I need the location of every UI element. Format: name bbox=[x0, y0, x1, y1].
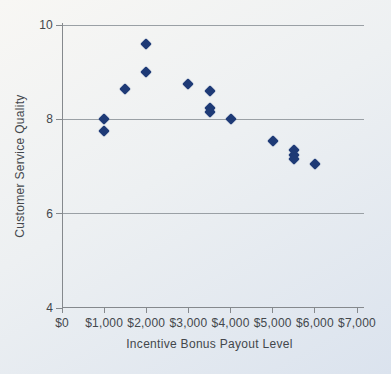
x-tick-label-0: $0 bbox=[55, 316, 69, 330]
y-axis-title: Customer Service Quality bbox=[13, 94, 27, 237]
x-tick-label-2000: $2,000 bbox=[127, 316, 165, 330]
scatter-chart-page: Customer Service Quality 10864$0$1,000$2… bbox=[0, 0, 391, 374]
y-tick-label-6: 6 bbox=[29, 206, 53, 222]
data-point-9 bbox=[225, 114, 236, 125]
data-point-2 bbox=[120, 83, 131, 94]
x-tick-label-1000: $1,000 bbox=[85, 316, 123, 330]
x-tick-label-7000: $7,000 bbox=[338, 316, 376, 330]
plot-area: 10864$0$1,000$2,000$3,000$4,000$5,000$6,… bbox=[62, 25, 357, 308]
x-tick-4000 bbox=[230, 308, 231, 313]
y-tick-label-4: 4 bbox=[29, 300, 53, 316]
gridline-y-10 bbox=[63, 25, 364, 26]
y-tick-6 bbox=[56, 213, 62, 214]
y-tick-8 bbox=[56, 119, 62, 120]
x-tick-label-3000: $3,000 bbox=[169, 316, 207, 330]
data-point-3 bbox=[141, 38, 152, 49]
data-point-14 bbox=[309, 158, 320, 169]
gridline-y-6 bbox=[63, 213, 364, 214]
data-point-1 bbox=[98, 125, 109, 136]
x-tick-0 bbox=[62, 308, 63, 313]
x-tick-5000 bbox=[272, 308, 273, 313]
x-tick-label-6000: $6,000 bbox=[296, 316, 334, 330]
x-axis-title: Incentive Bonus Payout Level bbox=[62, 337, 357, 351]
x-tick-2000 bbox=[146, 308, 147, 313]
data-point-6 bbox=[204, 85, 215, 96]
data-point-5 bbox=[183, 78, 194, 89]
x-tick-7000 bbox=[357, 308, 358, 313]
x-tick-3000 bbox=[188, 308, 189, 313]
data-point-0 bbox=[98, 114, 109, 125]
x-tick-1000 bbox=[104, 308, 105, 313]
x-tick-label-4000: $4,000 bbox=[212, 316, 250, 330]
x-axis-line bbox=[62, 307, 364, 308]
y-axis-line bbox=[62, 23, 63, 308]
y-tick-10 bbox=[56, 25, 62, 26]
y-tick-label-8: 8 bbox=[29, 111, 53, 127]
data-point-4 bbox=[141, 66, 152, 77]
x-tick-label-5000: $5,000 bbox=[254, 316, 292, 330]
data-point-10 bbox=[267, 135, 278, 146]
x-tick-6000 bbox=[314, 308, 315, 313]
y-tick-label-10: 10 bbox=[29, 17, 53, 33]
